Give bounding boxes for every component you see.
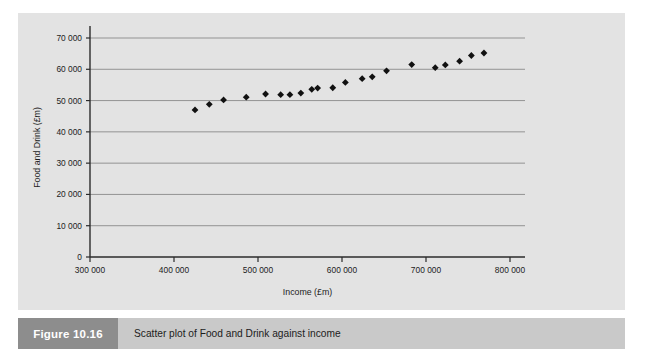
data-point-marker bbox=[408, 61, 415, 68]
x-axis-ticks-group: 300 000400 000500 000600 000700 000800 0… bbox=[75, 257, 526, 275]
gridlines-group bbox=[90, 38, 525, 226]
y-axis-tick-label: 60 000 bbox=[56, 64, 82, 74]
x-axis-tick-label: 400 000 bbox=[159, 265, 190, 275]
y-axis-tick-label: 0 bbox=[77, 252, 82, 262]
data-point-marker bbox=[329, 84, 336, 91]
chart-panel: 010 00020 00030 00040 00050 00060 00070 … bbox=[18, 13, 625, 310]
y-axis-tick-label: 70 000 bbox=[56, 33, 82, 43]
x-axis-tick-label: 700 000 bbox=[411, 265, 442, 275]
y-axis-tick-label: 10 000 bbox=[56, 221, 82, 231]
data-point-marker bbox=[262, 91, 269, 98]
y-axis-tick-label: 50 000 bbox=[56, 96, 82, 106]
data-point-marker bbox=[468, 52, 475, 59]
data-point-marker bbox=[297, 90, 304, 97]
y-axis-tick-label: 30 000 bbox=[56, 158, 82, 168]
data-point-marker bbox=[314, 85, 321, 92]
data-point-marker bbox=[308, 86, 315, 93]
x-axis-tick-label: 300 000 bbox=[75, 265, 106, 275]
data-point-marker bbox=[277, 91, 284, 98]
figure-caption-bar: Figure 10.16 Scatter plot of Food and Dr… bbox=[18, 318, 625, 349]
data-point-marker bbox=[206, 101, 213, 108]
scatter-plot: 010 00020 00030 00040 00050 00060 00070 … bbox=[18, 13, 625, 310]
data-point-marker bbox=[383, 67, 390, 74]
data-point-marker bbox=[359, 75, 366, 82]
y-axis-tick-label: 40 000 bbox=[56, 127, 82, 137]
data-point-marker bbox=[442, 62, 449, 69]
y-axis-ticks-group: 010 00020 00030 00040 00050 00060 00070 … bbox=[56, 33, 90, 262]
figure-caption-text: Scatter plot of Food and Drink against i… bbox=[134, 318, 341, 349]
data-point-marker bbox=[369, 73, 376, 80]
data-points-group bbox=[192, 50, 488, 114]
data-point-marker bbox=[432, 64, 439, 71]
data-point-marker bbox=[192, 107, 199, 114]
data-point-marker bbox=[342, 79, 349, 86]
x-axis-title: Income (£m) bbox=[283, 287, 332, 297]
data-point-marker bbox=[220, 97, 227, 104]
y-axis-title: Food and Drink (£m) bbox=[32, 107, 42, 188]
x-axis-tick-label: 600 000 bbox=[327, 265, 358, 275]
data-point-marker bbox=[243, 94, 250, 101]
figure-container: 010 00020 00030 00040 00050 00060 00070 … bbox=[0, 0, 648, 361]
x-axis-tick-label: 800 000 bbox=[495, 265, 526, 275]
x-axis-tick-label: 500 000 bbox=[243, 265, 274, 275]
figure-number-box: Figure 10.16 bbox=[18, 318, 118, 349]
data-point-marker bbox=[287, 91, 294, 98]
y-axis-tick-label: 20 000 bbox=[56, 189, 82, 199]
data-point-marker bbox=[481, 50, 488, 57]
figure-number-label: Figure 10.16 bbox=[33, 328, 103, 340]
data-point-marker bbox=[456, 58, 463, 65]
